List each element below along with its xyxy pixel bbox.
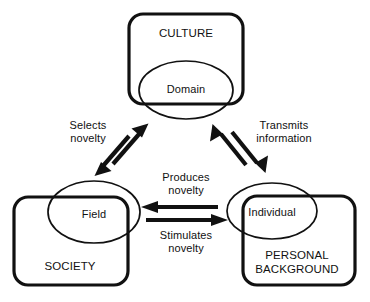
node-culture-box — [129, 14, 243, 104]
node-personal-background-box — [243, 196, 355, 285]
node-individual-ellipse — [227, 183, 317, 239]
edge-transmits-information — [210, 124, 268, 173]
edge-selects-novelty — [95, 124, 149, 177]
edge-stimulates-novelty — [146, 214, 228, 226]
creativity-systems-diagram: CULTURE Domain SOCIETY Field PERSONAL BA… — [0, 0, 370, 302]
diagram-canvas — [0, 0, 370, 302]
node-field-ellipse — [48, 181, 140, 243]
edge-produces-novelty — [141, 201, 218, 213]
node-domain-ellipse — [139, 61, 233, 119]
